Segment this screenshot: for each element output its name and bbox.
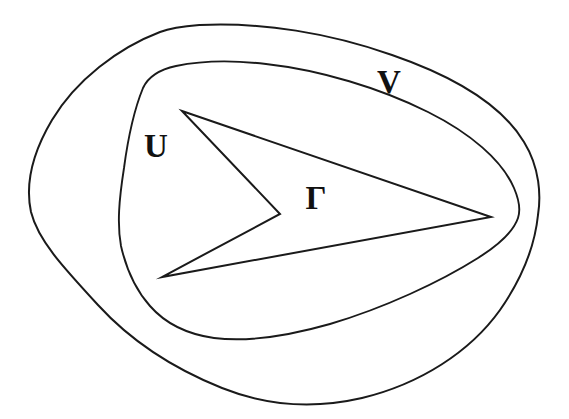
label-u: U — [144, 128, 168, 164]
diagram-canvas: U V Γ — [0, 0, 569, 419]
figure-background — [0, 0, 569, 419]
label-v: V — [377, 64, 401, 100]
nested-regions-figure: U V Γ — [0, 0, 569, 419]
label-gamma: Γ — [306, 180, 327, 216]
